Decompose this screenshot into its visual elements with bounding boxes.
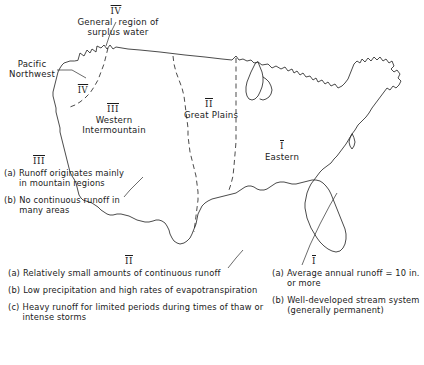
notes-ii-item-text: Heavy runoff for limited periods during …	[23, 302, 269, 322]
notes-ii-item: (a) Relatively small amounts of continuo…	[8, 268, 268, 278]
notes-ii-item-tag: (b)	[8, 285, 20, 295]
notes-ii-list: (a) Relatively small amounts of continuo…	[8, 268, 268, 322]
notes-ii-item-text: Low precipitation and high rates of evap…	[23, 285, 257, 295]
region-marker-iv-top: IV	[86, 6, 146, 16]
region-marker-iv-pnw: IV	[72, 86, 94, 96]
notes-iii-list: (a) Runoff originates mainly in mountain…	[4, 168, 134, 215]
notes-ii-heading: II	[112, 256, 146, 266]
leader-i-notes	[302, 193, 337, 265]
runoff-regions-figure: IV General region of surplus water Pacif…	[0, 0, 424, 365]
region-label-pacific-northwest: Pacific Northwest	[4, 59, 60, 79]
divider-iii-ii	[173, 56, 198, 232]
divider-ii-i	[229, 58, 236, 190]
notes-iii-heading: III	[22, 156, 56, 166]
region-label-iii-western-intermountain: Western Intermountain	[72, 115, 156, 135]
region-marker-ii: II	[192, 99, 226, 109]
notes-ii-item: (b) Low precipitation and high rates of …	[8, 285, 268, 295]
notes-iii-item: (a) Runoff originates mainly in mountain…	[4, 168, 134, 188]
notes-i-heading: I	[300, 256, 328, 266]
notes-iii-item-tag: (b)	[4, 195, 16, 215]
notes-ii-item: (c) Heavy runoff for limited periods dur…	[8, 302, 268, 322]
notes-i-list: (a) Average annual runoff = 10 in. or mo…	[272, 268, 422, 315]
leader-pacific-northwest	[57, 70, 86, 78]
region-label-ii-great-plains: Great Plains	[181, 110, 241, 120]
notes-i-item-text: Average annual runoff = 10 in. or more	[287, 268, 422, 288]
notes-ii-item-text: Relatively small amounts of continuous r…	[23, 268, 221, 278]
leader-ii-notes	[228, 250, 243, 268]
notes-i-item: (b) Well-developed stream system (genera…	[272, 295, 422, 315]
notes-iii-item-text: Runoff originates mainly in mountain reg…	[19, 168, 134, 188]
divider-iv-pacific-northwest	[70, 48, 108, 107]
notes-i-item-tag: (b)	[272, 295, 284, 315]
region-label-iv-general: General region of surplus water	[62, 17, 174, 37]
us-coastline-outline	[53, 45, 401, 252]
region-marker-i: I	[268, 141, 296, 151]
notes-i-item-text: Well-developed stream system (generally …	[287, 295, 422, 315]
notes-iii-item-text: No continuous runoff in many areas	[19, 195, 134, 215]
notes-ii-item-tag: (a)	[8, 268, 20, 278]
notes-ii-item-tag: (c)	[8, 302, 20, 322]
notes-i-item: (a) Average annual runoff = 10 in. or mo…	[272, 268, 422, 288]
chesapeake-bay-detail	[349, 134, 355, 149]
notes-iii-item: (b) No continuous runoff in many areas	[4, 195, 134, 215]
region-label-i-eastern: Eastern	[258, 152, 306, 162]
region-marker-iii: III	[96, 104, 130, 114]
notes-iii-item-tag: (a)	[4, 168, 16, 188]
notes-i-item-tag: (a)	[272, 268, 284, 288]
great-lakes-michigan-outline	[246, 62, 263, 100]
